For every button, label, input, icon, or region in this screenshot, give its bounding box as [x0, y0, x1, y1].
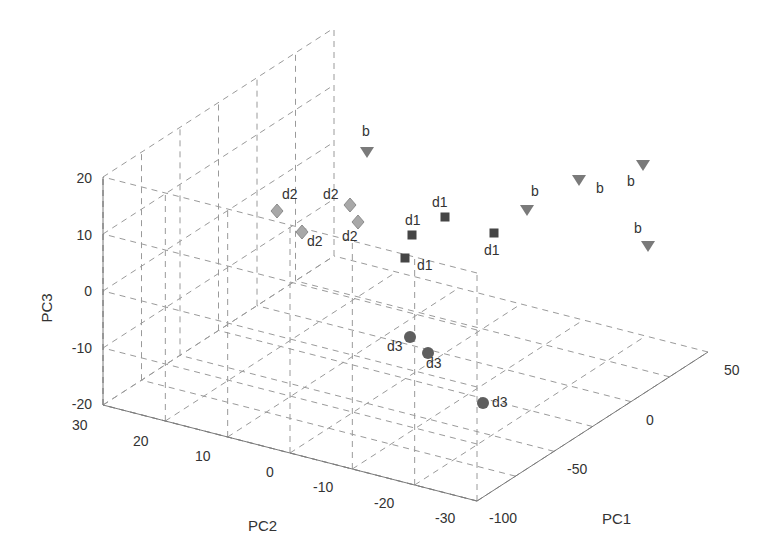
gridlines [103, 28, 708, 501]
point-label: d1 [484, 242, 500, 258]
point-label: b [627, 173, 635, 189]
point-label: d2 [323, 186, 339, 202]
point-label: b [362, 123, 370, 139]
pca-3d-scatter-chart: 20100-10-203020100-10-20-30-100-50050 PC… [0, 0, 776, 560]
triangle-marker [636, 160, 650, 171]
axis-label-pc3: PC3 [38, 293, 55, 322]
point-label: d3 [387, 338, 403, 354]
point-label: d3 [492, 394, 508, 410]
data-points: bbbbbd2d2d2d2d1d1d1d1d3d3d3 [271, 123, 655, 410]
pc2-tick-label: 20 [133, 433, 149, 449]
diamond-marker [352, 215, 364, 229]
square-marker [401, 254, 410, 263]
pc2-tick-label: 30 [72, 417, 88, 433]
point-label: d1 [405, 212, 421, 228]
pc2-tick-label: 0 [266, 464, 274, 480]
point-label: b [531, 183, 539, 199]
point-label: b [634, 220, 642, 236]
pc2-tick-label: -30 [435, 510, 455, 526]
point-label: d1 [417, 257, 433, 273]
diamond-marker [344, 198, 356, 212]
pc2-tick-label: -20 [374, 495, 394, 511]
square-marker [490, 229, 499, 238]
pc1-tick-label: 0 [646, 412, 654, 428]
floor-gridline [415, 336, 646, 485]
pc1-tick-label: -50 [567, 461, 587, 477]
floor-gridline [257, 306, 631, 402]
floor-gridline [296, 281, 670, 377]
circle-marker [404, 331, 416, 343]
triangle-marker [360, 147, 374, 158]
triangle-marker [641, 241, 655, 252]
diamond-marker [271, 204, 283, 218]
pc3-tick-label: 10 [76, 227, 92, 243]
point-label: d2 [342, 228, 358, 244]
pc3-tick-label: 0 [84, 283, 92, 299]
pc3-tick-label: 20 [76, 170, 92, 186]
pc1-tick-label: -100 [489, 510, 517, 526]
pc2-tick-label: -10 [313, 479, 333, 495]
square-marker [441, 213, 450, 222]
back-wall-gridline [103, 28, 334, 177]
pc1-tick-label: 50 [724, 362, 740, 378]
pc3-tick-label: -20 [72, 396, 92, 412]
triangle-marker [520, 205, 534, 216]
pc3-tick-label: -10 [72, 340, 92, 356]
floor-gridline [290, 304, 521, 453]
point-label: d1 [432, 194, 448, 210]
pc1-axis-line [477, 352, 708, 501]
point-label: d3 [426, 355, 442, 371]
pc2-tick-label: 10 [195, 448, 211, 464]
triangle-marker [572, 175, 586, 186]
axis-label-pc2: PC2 [248, 517, 277, 534]
point-label: b [596, 180, 604, 196]
circle-marker [477, 397, 489, 409]
point-label: d2 [282, 186, 298, 202]
axis-label-pc1: PC1 [602, 510, 631, 527]
point-label: d2 [307, 233, 323, 249]
square-marker [408, 231, 417, 240]
